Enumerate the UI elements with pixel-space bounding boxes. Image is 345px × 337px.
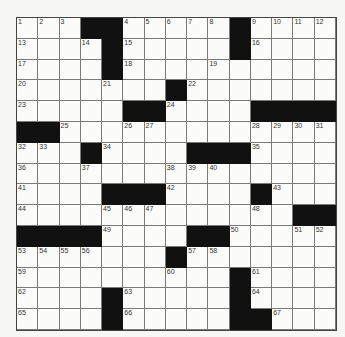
crossword-cell[interactable]	[38, 268, 59, 289]
crossword-cell[interactable]	[145, 309, 166, 330]
crossword-cell[interactable]	[145, 288, 166, 309]
crossword-cell[interactable]	[187, 101, 208, 122]
crossword-cell[interactable]: 48	[251, 205, 272, 226]
crossword-cell[interactable]: 5	[145, 18, 166, 39]
crossword-cell[interactable]	[102, 268, 123, 289]
crossword-cell[interactable]	[208, 184, 229, 205]
crossword-cell[interactable]: 32	[17, 143, 38, 164]
crossword-cell[interactable]	[272, 143, 293, 164]
crossword-cell[interactable]: 28	[251, 122, 272, 143]
crossword-cell[interactable]	[145, 268, 166, 289]
crossword-cell[interactable]	[315, 39, 336, 60]
crossword-cell[interactable]	[315, 143, 336, 164]
crossword-cell[interactable]	[81, 268, 102, 289]
crossword-cell[interactable]	[187, 288, 208, 309]
crossword-cell[interactable]: 56	[81, 247, 102, 268]
crossword-cell[interactable]	[38, 80, 59, 101]
crossword-cell[interactable]	[293, 309, 314, 330]
crossword-cell[interactable]: 22	[187, 80, 208, 101]
crossword-cell[interactable]: 2	[38, 18, 59, 39]
crossword-cell[interactable]	[272, 268, 293, 289]
crossword-cell[interactable]	[293, 288, 314, 309]
crossword-cell[interactable]	[272, 288, 293, 309]
crossword-cell[interactable]: 27	[145, 122, 166, 143]
crossword-cell[interactable]	[60, 164, 81, 185]
crossword-cell[interactable]: 58	[208, 247, 229, 268]
crossword-cell[interactable]	[60, 143, 81, 164]
crossword-cell[interactable]	[102, 164, 123, 185]
crossword-cell[interactable]	[293, 247, 314, 268]
crossword-cell[interactable]: 29	[272, 122, 293, 143]
crossword-cell[interactable]: 47	[145, 205, 166, 226]
crossword-cell[interactable]	[208, 288, 229, 309]
crossword-cell[interactable]	[102, 122, 123, 143]
crossword-cell[interactable]: 23	[17, 101, 38, 122]
crossword-cell[interactable]	[145, 247, 166, 268]
crossword-cell[interactable]: 12	[315, 18, 336, 39]
crossword-cell[interactable]	[272, 39, 293, 60]
crossword-cell[interactable]	[251, 60, 272, 81]
crossword-cell[interactable]: 9	[251, 18, 272, 39]
crossword-cell[interactable]	[166, 122, 187, 143]
crossword-cell[interactable]	[187, 122, 208, 143]
crossword-cell[interactable]	[145, 226, 166, 247]
crossword-cell[interactable]	[81, 80, 102, 101]
crossword-cell[interactable]	[251, 226, 272, 247]
crossword-cell[interactable]	[60, 60, 81, 81]
crossword-cell[interactable]: 46	[123, 205, 144, 226]
crossword-cell[interactable]	[208, 101, 229, 122]
crossword-cell[interactable]: 24	[166, 101, 187, 122]
crossword-cell[interactable]	[38, 288, 59, 309]
crossword-cell[interactable]: 38	[166, 164, 187, 185]
crossword-cell[interactable]	[60, 205, 81, 226]
crossword-cell[interactable]	[187, 268, 208, 289]
crossword-cell[interactable]: 33	[38, 143, 59, 164]
crossword-cell[interactable]	[272, 205, 293, 226]
crossword-cell[interactable]	[272, 164, 293, 185]
crossword-cell[interactable]	[230, 184, 251, 205]
crossword-cell[interactable]	[208, 122, 229, 143]
crossword-cell[interactable]: 3	[60, 18, 81, 39]
crossword-cell[interactable]: 59	[17, 268, 38, 289]
crossword-cell[interactable]: 14	[81, 39, 102, 60]
crossword-cell[interactable]	[60, 39, 81, 60]
crossword-cell[interactable]: 40	[208, 164, 229, 185]
crossword-cell[interactable]: 54	[38, 247, 59, 268]
crossword-cell[interactable]: 25	[60, 122, 81, 143]
crossword-cell[interactable]	[230, 122, 251, 143]
crossword-cell[interactable]	[38, 101, 59, 122]
crossword-cell[interactable]	[81, 205, 102, 226]
crossword-cell[interactable]: 42	[166, 184, 187, 205]
crossword-cell[interactable]: 45	[102, 205, 123, 226]
crossword-cell[interactable]	[208, 205, 229, 226]
crossword-cell[interactable]	[230, 80, 251, 101]
crossword-cell[interactable]: 50	[230, 226, 251, 247]
crossword-cell[interactable]: 26	[123, 122, 144, 143]
crossword-cell[interactable]: 6	[166, 18, 187, 39]
crossword-cell[interactable]	[102, 101, 123, 122]
crossword-cell[interactable]: 65	[17, 309, 38, 330]
crossword-cell[interactable]: 16	[251, 39, 272, 60]
crossword-cell[interactable]	[272, 60, 293, 81]
crossword-cell[interactable]	[251, 164, 272, 185]
crossword-cell[interactable]: 30	[293, 122, 314, 143]
crossword-cell[interactable]	[81, 288, 102, 309]
crossword-cell[interactable]	[38, 39, 59, 60]
crossword-cell[interactable]: 43	[272, 184, 293, 205]
crossword-cell[interactable]: 34	[102, 143, 123, 164]
crossword-cell[interactable]	[293, 164, 314, 185]
crossword-cell[interactable]	[272, 226, 293, 247]
crossword-cell[interactable]	[293, 39, 314, 60]
crossword-cell[interactable]	[166, 60, 187, 81]
crossword-cell[interactable]	[166, 288, 187, 309]
crossword-cell[interactable]	[187, 205, 208, 226]
crossword-cell[interactable]: 49	[102, 226, 123, 247]
crossword-cell[interactable]	[166, 226, 187, 247]
crossword-cell[interactable]	[315, 164, 336, 185]
crossword-cell[interactable]: 51	[293, 226, 314, 247]
crossword-cell[interactable]	[123, 164, 144, 185]
crossword-cell[interactable]	[293, 184, 314, 205]
crossword-cell[interactable]	[81, 60, 102, 81]
crossword-cell[interactable]: 61	[251, 268, 272, 289]
crossword-cell[interactable]	[187, 309, 208, 330]
